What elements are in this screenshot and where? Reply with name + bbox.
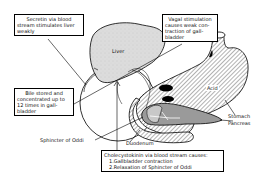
duodenum-label: Duodenum xyxy=(126,140,154,146)
acid-label: Acid xyxy=(206,85,219,91)
bile-line-4: bladder xyxy=(17,108,71,114)
vagal-line-4: bladder xyxy=(165,34,215,40)
cholecystokinin-callout: Cholecystokinin via blood stream causes:… xyxy=(101,150,224,172)
secretin-callout: Secretin via blood stream stimulates liv… xyxy=(14,14,84,36)
cck-line-3: 2.Relaxation of Sphincter of Oddi xyxy=(104,164,221,170)
bile-callout: Bile stored and concentrated up to 12 ti… xyxy=(14,88,74,116)
pancreas-label: Pancreas xyxy=(228,120,250,126)
liver-shape xyxy=(90,23,165,83)
sphincter-of-oddi-label: Sphincter of Oddi xyxy=(40,137,84,143)
stomach-label: Stomach xyxy=(228,113,250,119)
liver-label: Liver xyxy=(112,48,124,54)
secretin-line-3: weakly xyxy=(17,28,81,34)
vagal-callout: Vagal stimulation causes weak con- tract… xyxy=(162,14,218,42)
